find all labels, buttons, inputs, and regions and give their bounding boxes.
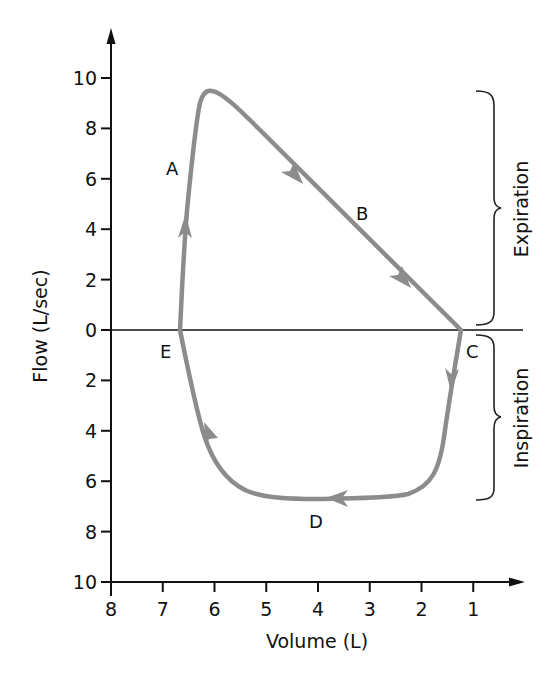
y-tick-label: 0: [85, 319, 97, 341]
label-c: C: [466, 341, 479, 362]
label-a: A: [166, 158, 179, 179]
y-tick-label: 4: [85, 420, 97, 442]
x-tick-label: 6: [208, 598, 220, 620]
expiration-brace: [476, 91, 501, 325]
arrow-up-left-icon: [204, 422, 218, 446]
x-ticks: [111, 582, 473, 592]
braces: [476, 91, 501, 500]
y-tick-label: 10: [73, 571, 97, 593]
x-axis-arrow-icon: [509, 578, 525, 587]
x-tick-label: 7: [157, 598, 169, 620]
y-tick-label: 8: [85, 521, 97, 543]
y-tick-label: 2: [85, 269, 97, 291]
inspiration-label: Inspiration: [510, 368, 532, 469]
flow-volume-loop-chart: 10 8 6 4 2 0 2 4 6 8 10 Flow (L/sec): [0, 0, 555, 684]
label-e: E: [160, 341, 171, 362]
y-tick-label: 2: [85, 369, 97, 391]
y-tick-label: 6: [85, 168, 97, 190]
arrow-down-right-icon: [281, 162, 303, 184]
y-axis: 10 8 6 4 2 0 2 4 6 8 10 Flow (L/sec): [29, 28, 116, 596]
y-tick-label: 6: [85, 470, 97, 492]
x-tick-label: 1: [467, 598, 479, 620]
x-tick-labels: 8 7 6 5 4 3 2 1: [105, 598, 479, 620]
y-axis-title: Flow (L/sec): [29, 269, 51, 382]
y-tick-label: 4: [85, 218, 97, 240]
x-tick-label: 8: [105, 598, 117, 620]
y-axis-arrow-icon: [107, 28, 116, 44]
x-axis: 8 7 6 5 4 3 2 1 Volume (L): [101, 578, 525, 653]
direction-arrows: [178, 162, 459, 507]
y-tick-label: 8: [85, 117, 97, 139]
inspiration-brace: [476, 335, 501, 500]
y-tick-labels: 10 8 6 4 2 0 2 4 6 8 10: [73, 67, 97, 593]
expiration-curve: [180, 91, 459, 330]
label-b: B: [356, 203, 368, 224]
x-tick-label: 3: [364, 598, 376, 620]
y-tick-label: 10: [73, 67, 97, 89]
x-axis-title: Volume (L): [266, 630, 368, 652]
expiration-label: Expiration: [510, 161, 532, 257]
x-tick-label: 2: [415, 598, 427, 620]
y-ticks: [101, 78, 111, 582]
x-tick-label: 5: [260, 598, 272, 620]
flow-volume-loop: [180, 91, 461, 499]
x-tick-label: 4: [312, 598, 324, 620]
inspiration-curve: [180, 330, 461, 499]
label-d: D: [309, 511, 323, 532]
